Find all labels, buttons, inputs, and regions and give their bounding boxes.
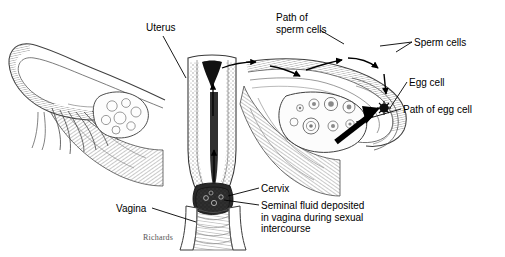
label-path-of-egg-cell: Path of egg cell bbox=[403, 104, 472, 116]
right-ovary bbox=[279, 92, 367, 152]
label-uterus: Uterus bbox=[146, 22, 175, 34]
artist-signature: Richards bbox=[143, 233, 173, 242]
leader-uterus bbox=[163, 36, 186, 78]
label-vagina: Vagina bbox=[116, 203, 146, 215]
vaginal-canal bbox=[180, 206, 246, 250]
label-seminal-fluid: Seminal fluid deposited in vagina during… bbox=[261, 200, 364, 235]
label-cervix: Cervix bbox=[261, 183, 289, 195]
anatomy-diagram-figure: Uterus Path of sperm cells Sperm cells E… bbox=[0, 0, 505, 257]
leader-cervix bbox=[228, 188, 259, 196]
left-ovary bbox=[93, 92, 148, 138]
label-sperm-cells: Sperm cells bbox=[414, 37, 466, 49]
label-egg-cell: Egg cell bbox=[409, 77, 445, 89]
label-path-of-sperm-cells: Path of sperm cells bbox=[276, 12, 327, 35]
